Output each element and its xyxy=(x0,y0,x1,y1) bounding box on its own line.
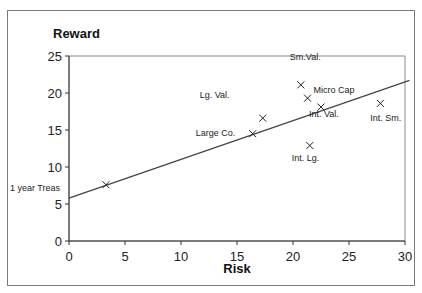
x-tick-label: 15 xyxy=(230,249,244,264)
scatter-chart: Reward Risk 0510152025051015202530 1 yea… xyxy=(0,0,422,293)
y-axis-title: Reward xyxy=(53,26,100,41)
data-point: Sm.Val. xyxy=(290,52,321,89)
data-point: Int. Lg. xyxy=(292,142,320,163)
point-label: 1 year Treas xyxy=(10,183,61,193)
data-point: Lg. Val. xyxy=(200,90,267,122)
y-tick-label: 15 xyxy=(48,123,62,138)
x-tick-label: 25 xyxy=(342,249,356,264)
y-tick-label: 0 xyxy=(55,234,62,249)
plot-area xyxy=(69,56,405,241)
y-tick-label: 5 xyxy=(55,197,62,212)
y-tick-label: 20 xyxy=(48,86,62,101)
data-point: 1 year Treas xyxy=(10,181,110,193)
y-tick-label: 10 xyxy=(48,160,62,175)
point-label: Micro Cap xyxy=(314,85,355,95)
trendline xyxy=(69,80,409,198)
axes: 0510152025051015202530 xyxy=(48,49,413,264)
point-label: Int. Lg. xyxy=(292,153,320,163)
y-tick-label: 25 xyxy=(48,49,62,64)
x-tick-label: 0 xyxy=(65,249,72,264)
data-point: Micro Cap xyxy=(304,85,355,102)
data-point: Int. Sm. xyxy=(370,100,401,124)
x-tick-label: 30 xyxy=(398,249,412,264)
x-tick-label: 20 xyxy=(286,249,300,264)
x-tick-label: 5 xyxy=(121,249,128,264)
point-label: Int. Val. xyxy=(309,109,339,119)
point-label: Large Co. xyxy=(196,128,236,138)
point-label: Int. Sm. xyxy=(370,113,401,123)
point-label: Lg. Val. xyxy=(200,90,230,100)
x-tick-label: 10 xyxy=(174,249,188,264)
point-label: Sm.Val. xyxy=(290,52,321,62)
